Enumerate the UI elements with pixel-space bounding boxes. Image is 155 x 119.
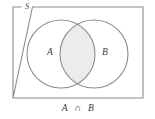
venn-diagram-figure: S A B A ∩ B	[0, 0, 155, 119]
intersection-operator-icon: ∩	[74, 103, 81, 113]
set-b-label: B	[102, 47, 108, 57]
venn-diagram-canvas: S A B A ∩ B	[0, 0, 155, 119]
caption-left-set: A	[61, 103, 68, 113]
universal-set-label: S	[25, 1, 30, 11]
set-a-label: A	[46, 47, 53, 57]
figure-caption: A ∩ B	[61, 103, 95, 113]
caption-right-set: B	[88, 103, 94, 113]
